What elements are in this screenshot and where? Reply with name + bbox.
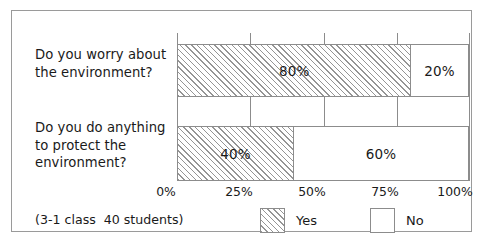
x-tick-label-75: 75% bbox=[371, 184, 399, 199]
plot-area: 80% 20% 40% 60% bbox=[177, 33, 470, 181]
category-label-line: Do you worry about bbox=[35, 46, 175, 64]
bar-segment-no: 20% bbox=[410, 44, 469, 97]
bar-value-label: 80% bbox=[277, 63, 312, 79]
x-tick-label-50: 50% bbox=[298, 184, 326, 199]
x-tick-label-100: 100% bbox=[437, 184, 472, 199]
legend-label-yes: Yes bbox=[296, 213, 317, 228]
legend-swatch-no-icon bbox=[370, 208, 395, 233]
figure-caption: (3-1 class 40 students) bbox=[35, 212, 183, 227]
bar-value-label: 20% bbox=[422, 63, 457, 79]
category-label-line: to protect the bbox=[35, 137, 175, 155]
stacked-bar-question-2: 40% 60% bbox=[177, 126, 470, 181]
x-tick-label-0: 0% bbox=[156, 184, 176, 199]
category-label-question-2: Do you do anything to protect the enviro… bbox=[35, 119, 175, 172]
bar-segment-yes: 80% bbox=[177, 44, 411, 97]
survey-chart-figure: Do you worry about the environment? Do y… bbox=[0, 0, 494, 246]
bar-value-label: 60% bbox=[364, 146, 399, 162]
bar-segment-no: 60% bbox=[293, 126, 469, 181]
category-label-line: Do you do anything bbox=[35, 119, 175, 137]
legend-label-no: No bbox=[406, 213, 424, 228]
x-tick-label-25: 25% bbox=[225, 184, 253, 199]
legend-item-no: No bbox=[370, 208, 424, 233]
stacked-bar-question-1: 80% 20% bbox=[177, 44, 470, 97]
bar-value-label: 40% bbox=[218, 146, 253, 162]
category-label-line: the environment? bbox=[35, 64, 175, 82]
bar-segment-yes: 40% bbox=[177, 126, 294, 181]
figure-frame: Do you worry about the environment? Do y… bbox=[11, 10, 472, 232]
category-label-line: environment? bbox=[35, 154, 175, 172]
legend-item-yes: Yes bbox=[260, 208, 317, 233]
legend-swatch-yes-icon bbox=[260, 208, 285, 233]
category-label-question-1: Do you worry about the environment? bbox=[35, 46, 175, 81]
